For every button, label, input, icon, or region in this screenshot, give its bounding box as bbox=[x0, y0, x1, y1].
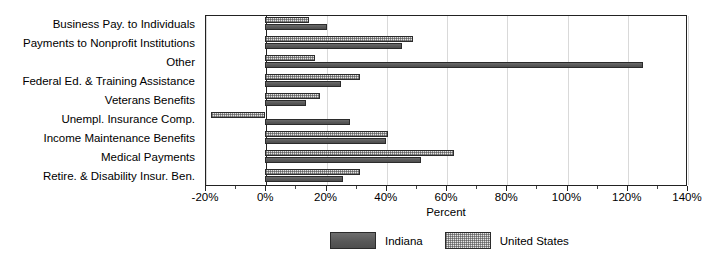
bar-row bbox=[205, 110, 687, 129]
bar-united-states bbox=[265, 36, 413, 42]
y-axis-label: Veterans Benefits bbox=[0, 91, 200, 110]
bar-indiana bbox=[265, 157, 421, 163]
bar-united-states bbox=[265, 131, 387, 137]
legend-item-united-states[interactable]: United States bbox=[445, 232, 569, 249]
bar-united-states bbox=[265, 150, 454, 156]
bar-row bbox=[205, 148, 687, 167]
x-tick-minor bbox=[295, 186, 296, 189]
x-axis-tick-label: -20% bbox=[192, 191, 219, 203]
legend-item-indiana[interactable]: Indiana bbox=[330, 232, 423, 249]
x-tick-minor bbox=[416, 186, 417, 189]
y-axis-category-labels: Business Pay. to IndividualsPayments to … bbox=[0, 15, 200, 186]
bar-row bbox=[205, 91, 687, 110]
bar-indiana bbox=[265, 176, 343, 182]
bar-united-states bbox=[265, 17, 308, 23]
bar-row bbox=[205, 72, 687, 91]
x-tick-minor bbox=[597, 186, 598, 189]
x-tick-minor bbox=[476, 186, 477, 189]
bar-row bbox=[205, 129, 687, 148]
x-tick-minor bbox=[235, 186, 236, 189]
bar-indiana bbox=[265, 43, 401, 49]
bar-row bbox=[205, 34, 687, 53]
x-axis-tick-label: 80% bbox=[495, 191, 518, 203]
x-axis-tick-label: 0% bbox=[257, 191, 274, 203]
bar-united-states bbox=[265, 74, 360, 80]
x-axis-tick-label: 140% bbox=[672, 191, 701, 203]
indiana-swatch-icon bbox=[330, 232, 376, 249]
y-axis-label: Payments to Nonprofit Institutions bbox=[0, 34, 200, 53]
united-states-swatch-icon bbox=[445, 232, 491, 249]
x-axis-tick-label: 60% bbox=[434, 191, 457, 203]
x-axis-tick-label: 20% bbox=[314, 191, 337, 203]
bar-indiana bbox=[265, 119, 350, 125]
bar-indiana bbox=[265, 81, 341, 87]
chart-legend: Indiana United States bbox=[330, 232, 569, 249]
x-axis-tick-label: 40% bbox=[374, 191, 397, 203]
x-tick-minor bbox=[536, 186, 537, 189]
y-axis-label: Medical Payments bbox=[0, 148, 200, 167]
x-axis-tick-labels: -20%0%20%40%60%80%100%120%140% bbox=[0, 191, 722, 205]
bar-united-states bbox=[265, 55, 315, 61]
y-axis-label: Retire. & Disability Insur. Ben. bbox=[0, 167, 200, 186]
bar-rows bbox=[205, 15, 687, 186]
bar-indiana bbox=[265, 100, 306, 106]
bar-united-states bbox=[211, 112, 265, 118]
x-axis-title: Percent bbox=[205, 206, 687, 218]
bar-indiana bbox=[265, 62, 642, 68]
y-axis-label: Other bbox=[0, 53, 200, 72]
y-axis-label: Income Maintenance Benefits bbox=[0, 129, 200, 148]
y-axis-label: Federal Ed. & Training Assistance bbox=[0, 72, 200, 91]
x-axis-tick-label: 100% bbox=[552, 191, 581, 203]
x-tick-minor bbox=[356, 186, 357, 189]
bar-indiana bbox=[265, 138, 386, 144]
bar-row bbox=[205, 15, 687, 34]
bar-united-states bbox=[265, 93, 320, 99]
bar-indiana bbox=[265, 24, 327, 30]
x-tick-minor bbox=[657, 186, 658, 189]
bar-row bbox=[205, 167, 687, 186]
y-axis-label: Unempl. Insurance Comp. bbox=[0, 110, 200, 129]
chart-container: Business Pay. to IndividualsPayments to … bbox=[0, 0, 722, 270]
legend-label-united-states: United States bbox=[500, 235, 569, 247]
x-axis-tick-label: 120% bbox=[612, 191, 641, 203]
bar-united-states bbox=[265, 169, 360, 175]
y-axis-label: Business Pay. to Individuals bbox=[0, 15, 200, 34]
legend-label-indiana: Indiana bbox=[385, 235, 423, 247]
gridline bbox=[688, 16, 689, 185]
bar-row bbox=[205, 53, 687, 72]
